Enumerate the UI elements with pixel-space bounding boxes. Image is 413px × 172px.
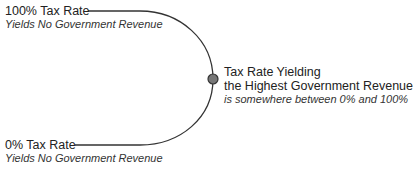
peak-label: Tax Rate Yielding the Highest Government…: [224, 65, 413, 106]
peak-title-line1: Tax Rate Yielding: [224, 65, 413, 79]
top-subtitle: Yields No Government Revenue: [5, 18, 163, 31]
peak-title-line2: the Highest Government Revenue: [224, 79, 413, 93]
top-label: 100% Tax Rate Yields No Government Reven…: [5, 4, 163, 31]
top-title: 100% Tax Rate: [5, 4, 163, 18]
bottom-title: 0% Tax Rate: [5, 138, 163, 152]
peak-dot-icon: [208, 74, 218, 84]
peak-subtitle: is somewhere between 0% and 100%: [224, 93, 413, 106]
curve-path: [75, 11, 213, 145]
bottom-label: 0% Tax Rate Yields No Government Revenue: [5, 138, 163, 165]
bottom-subtitle: Yields No Government Revenue: [5, 152, 163, 165]
